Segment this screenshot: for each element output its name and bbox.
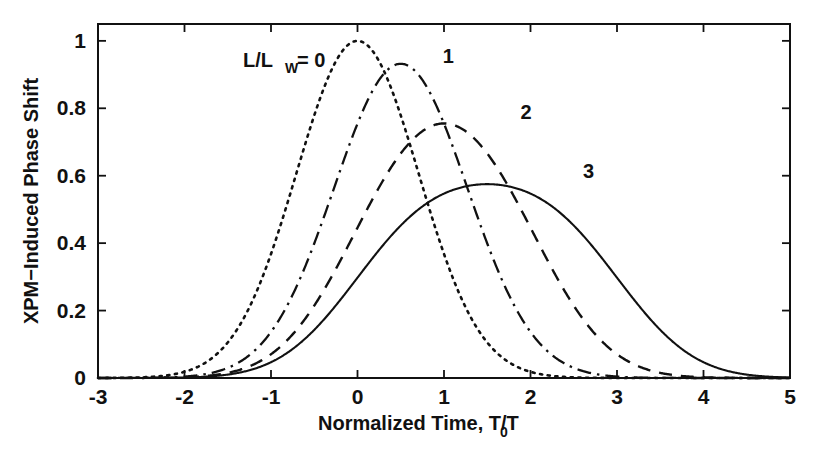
data-curves xyxy=(98,41,790,378)
x-axis-title-text: Normalized Time, T/T xyxy=(318,412,519,434)
y-axis-title-text: XPM−Induced Phase Shift xyxy=(20,78,42,325)
x-tick-label: 3 xyxy=(611,385,623,408)
legend-equals-text: = 0 xyxy=(297,49,325,71)
y-tick-label: 0.4 xyxy=(57,231,87,254)
x-tick-label: 1 xyxy=(438,385,450,408)
x-axis-ticks xyxy=(98,24,790,378)
y-tick-label: 0.8 xyxy=(57,96,87,119)
x-tick-label: 0 xyxy=(352,385,364,408)
x-tick-label: 2 xyxy=(525,385,537,408)
curve-2 xyxy=(98,123,790,378)
y-tick-label: 0.2 xyxy=(57,299,86,322)
x-tick-label: -1 xyxy=(262,385,281,408)
x-tick-label: -3 xyxy=(89,385,108,408)
x-axis-tick-labels: -3-2-1012345 xyxy=(89,385,797,408)
y-tick-label: 1 xyxy=(74,29,86,52)
x-tick-label: 5 xyxy=(784,385,796,408)
curve-3 xyxy=(98,184,790,378)
curve-label-3: 3 xyxy=(583,160,594,182)
x-tick-label: -2 xyxy=(175,385,194,408)
y-tick-label: 0.6 xyxy=(57,164,86,187)
legend-annotation: L/L W = 0 xyxy=(243,49,325,76)
plot-frame xyxy=(98,24,790,378)
y-tick-label: 0 xyxy=(74,366,86,389)
curve-label-1: 1 xyxy=(443,45,454,67)
curve-label-2: 2 xyxy=(521,101,532,123)
y-axis-tick-labels: 00.20.40.60.81 xyxy=(57,29,87,389)
curve-1 xyxy=(98,64,790,378)
x-axis-title: Normalized Time, T/T 0 xyxy=(318,412,519,440)
legend-prefix-text: L/L xyxy=(243,49,273,71)
chart-canvas: -3-2-1012345 00.20.40.60.81 123 L/L W = … xyxy=(0,0,830,456)
xpm-phase-shift-figure: -3-2-1012345 00.20.40.60.81 123 L/L W = … xyxy=(0,0,830,456)
x-axis-title-subscript: 0 xyxy=(500,424,508,440)
x-tick-label: 4 xyxy=(698,385,710,408)
series-annotations: 123 xyxy=(443,45,594,182)
curve-0 xyxy=(98,41,790,378)
y-axis-ticks xyxy=(98,41,790,378)
